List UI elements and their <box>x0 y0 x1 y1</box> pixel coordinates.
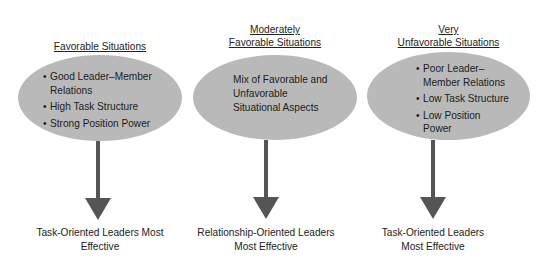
heading-favorable: Favorable Situations <box>28 40 172 53</box>
ellipse-line: Situational Aspects <box>233 100 328 114</box>
heading-line: Unfavorable Situations <box>377 36 520 49</box>
bullet-item: Good Leader–MemberRelations <box>43 70 152 97</box>
ellipse-moderately-favorable-text: Mix of Favorable and Unfavorable Situati… <box>233 72 328 114</box>
ellipse-line: Mix of Favorable and <box>233 72 328 86</box>
bullet-item: High Task Structure <box>43 100 152 114</box>
outcome-line: Relationship-Oriented Leaders <box>187 225 345 239</box>
ellipse-line: Unfavorable <box>233 86 328 100</box>
heading-line: Favorable Situations <box>28 40 172 53</box>
outcome-line: Task-Oriented Leaders Most <box>21 225 179 239</box>
down-arrow-icon <box>417 140 449 220</box>
outcome-favorable: Task-Oriented Leaders Most Effective <box>21 225 179 253</box>
outcome-line: Task-Oriented Leaders <box>354 225 512 239</box>
heading-line: Favorable Situations <box>203 36 347 49</box>
bullet-item: Poor Leader–Member Relations <box>416 62 509 89</box>
bullet-item: Strong Position Power <box>43 117 152 131</box>
heading-very-unfavorable: Very Unfavorable Situations <box>377 23 520 49</box>
outcome-line: Most Effective <box>354 239 512 253</box>
outcome-line: Most Effective <box>187 239 345 253</box>
bullet-item: Low Task Structure <box>416 92 509 106</box>
ellipse-favorable-text: Good Leader–MemberRelations High Task St… <box>43 70 152 133</box>
heading-line: Very <box>377 23 520 36</box>
bullet-item: Low PositionPower <box>416 109 509 136</box>
heading-line: Moderately <box>203 23 347 36</box>
heading-moderately-favorable: Moderately Favorable Situations <box>203 23 347 49</box>
ellipse-very-unfavorable-text: Poor Leader–Member Relations Low Task St… <box>416 62 509 139</box>
outcome-very-unfavorable: Task-Oriented Leaders Most Effective <box>354 225 512 253</box>
outcome-moderately-favorable: Relationship-Oriented Leaders Most Effec… <box>187 225 345 253</box>
outcome-line: Effective <box>21 239 179 253</box>
down-arrow-icon <box>250 140 282 220</box>
down-arrow-icon <box>82 141 114 221</box>
